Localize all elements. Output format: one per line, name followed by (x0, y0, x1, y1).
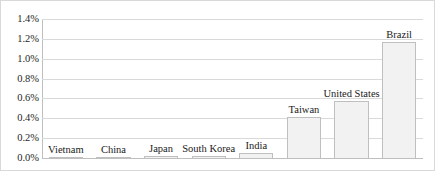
bar-label: Vietnam (34, 144, 98, 155)
bar[interactable] (334, 101, 368, 158)
y-axis-tick-label: 0.2% (3, 133, 39, 144)
bar-group-india[interactable]: India (233, 19, 281, 158)
y-axis-tick-label: 1.4% (3, 14, 39, 25)
bar-group-brazil[interactable]: Brazil (375, 19, 423, 158)
y-axis-tick-label: 0.6% (3, 93, 39, 104)
bar-label: United States (320, 88, 384, 99)
bar[interactable] (239, 153, 273, 158)
bar-label: India (225, 140, 289, 151)
bar[interactable] (287, 117, 321, 158)
bar-label: Japan (129, 143, 193, 154)
y-axis-tick-label: 1.2% (3, 34, 39, 45)
bar[interactable] (192, 156, 226, 158)
bar-label: Brazil (367, 29, 431, 40)
y-axis-tick-labels: 1.4%1.2%1.0%0.8%0.6%0.4%0.2%0.0% (1, 19, 39, 158)
gridline-0.0 (42, 158, 423, 159)
bar-label: Taiwan (272, 104, 336, 115)
bar[interactable] (96, 157, 130, 158)
bar-group-japan[interactable]: Japan (137, 19, 185, 158)
y-axis-tick-label: 0.0% (3, 153, 39, 164)
bar-group-south-korea[interactable]: South Korea (185, 19, 233, 158)
bar-label: China (82, 144, 146, 155)
bar-group-vietnam[interactable]: Vietnam (42, 19, 90, 158)
bar-group-united-states[interactable]: United States (328, 19, 376, 158)
y-axis-tick-label: 0.8% (3, 73, 39, 84)
bar-group-taiwan[interactable]: Taiwan (280, 19, 328, 158)
y-axis-tick-label: 1.0% (3, 53, 39, 64)
y-axis-tick-label: 0.4% (3, 113, 39, 124)
bar[interactable] (144, 156, 178, 158)
bars-layer: VietnamChinaJapanSouth KoreaIndiaTaiwanU… (42, 19, 423, 158)
bar-chart: 1.4%1.2%1.0%0.8%0.6%0.4%0.2%0.0% Vietnam… (0, 0, 435, 171)
bar-group-china[interactable]: China (90, 19, 138, 158)
bar-label: South Korea (177, 143, 241, 154)
bar[interactable] (49, 157, 83, 158)
bar[interactable] (382, 42, 416, 158)
